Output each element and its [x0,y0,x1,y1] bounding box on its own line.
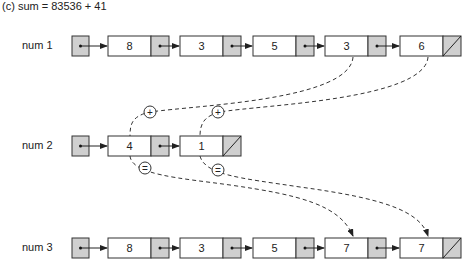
list-node: 8 [108,36,179,56]
list-node: 5 [253,36,324,56]
list-node: 4 [108,136,179,156]
equals-operator-icon: = [139,162,151,174]
plus-operator-icon: + [144,106,156,118]
node-value: 6 [418,40,424,52]
carry-path-2 [200,57,428,136]
node-value: 3 [198,242,204,254]
svg-text:=: = [215,165,221,176]
svg-text:=: = [142,163,148,174]
list-node: 8 [108,238,179,258]
node-value: 3 [343,40,349,52]
list-row-2: 41 [72,136,241,156]
node-value: 7 [418,242,424,254]
equals-operator-icon: = [212,164,224,176]
node-value: 1 [198,140,204,152]
list-node: 3 [325,36,399,56]
carry-path-1 [130,57,353,136]
list-node: 3 [180,36,252,56]
list-row-1: 83536 [72,36,461,56]
list-node: 7 [325,238,399,258]
node-value: 8 [126,242,132,254]
node-value: 4 [126,140,132,152]
node-value: 5 [271,242,277,254]
node-value: 8 [126,40,132,52]
svg-text:+: + [215,107,221,118]
sum-path-2 [200,156,428,236]
node-value: 7 [343,242,349,254]
list-node: 7 [400,238,461,258]
plus-operator-icon: + [212,106,224,118]
list-row-3: 83577 [72,238,461,258]
list-node: 1 [180,136,241,156]
linked-list-diagram: 835364183577 ++== [0,0,468,273]
node-value: 3 [198,40,204,52]
list-node: 3 [180,238,252,258]
list-node: 5 [253,238,324,258]
sum-path-1 [130,156,353,236]
list-node: 6 [400,36,461,56]
svg-text:+: + [147,107,153,118]
node-value: 5 [271,40,277,52]
